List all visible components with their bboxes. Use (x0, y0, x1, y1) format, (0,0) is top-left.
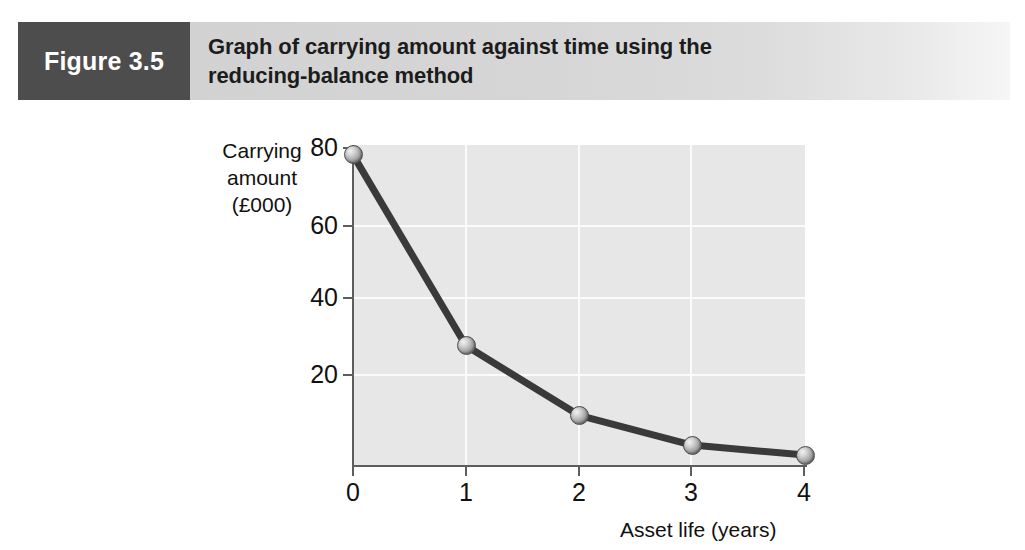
data-point-marker (457, 336, 476, 355)
figure-number-block: Figure 3.5 (18, 22, 190, 100)
figure-number-label: Figure 3.5 (44, 47, 164, 76)
data-point-marker (344, 145, 363, 164)
data-point-marker (796, 446, 815, 465)
data-point-marker (570, 406, 589, 425)
data-marker-layer (0, 100, 1025, 550)
data-point-marker (683, 436, 702, 455)
chart-region: 80 60 40 20 0 1 2 3 4 Carrying amount (£… (0, 100, 1025, 550)
figure-title: Graph of carrying amount against time us… (208, 32, 712, 90)
figure-header: Figure 3.5 Graph of carrying amount agai… (18, 22, 1010, 100)
figure-title-block: Graph of carrying amount against time us… (190, 22, 1010, 100)
